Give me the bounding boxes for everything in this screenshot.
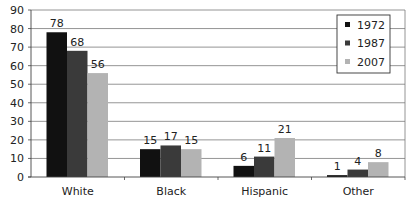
y-tick-label: 30	[10, 115, 24, 128]
y-tick-label: 80	[10, 23, 24, 36]
data-label: 8	[375, 147, 382, 160]
y-axis: 0102030405060708090	[10, 4, 31, 184]
data-label: 15	[143, 134, 157, 147]
y-tick-label: 20	[10, 134, 24, 147]
legend-label: 2007	[357, 56, 385, 69]
legend-swatch	[345, 22, 350, 27]
data-label: 56	[91, 58, 105, 71]
data-label: 11	[257, 142, 271, 155]
data-label: 1	[334, 160, 341, 173]
x-category-label: Hispanic	[241, 185, 288, 198]
bar-other-2007	[368, 162, 389, 177]
data-label: 68	[70, 36, 84, 49]
bar-white-1972	[47, 32, 68, 177]
data-label: 78	[50, 17, 64, 30]
y-tick-label: 60	[10, 60, 24, 73]
data-label: 17	[164, 130, 178, 143]
grouped-bar-chart: 0102030405060708090 78685615171561121148…	[0, 0, 414, 204]
legend-swatch	[345, 59, 350, 64]
data-label: 6	[240, 151, 247, 164]
x-category-label: Black	[156, 185, 186, 198]
y-tick-label: 10	[10, 152, 24, 165]
y-tick-label: 0	[17, 171, 24, 184]
bar-other-1987	[348, 170, 369, 177]
bar-hispanic-1972	[234, 166, 255, 177]
legend-label: 1972	[357, 19, 385, 32]
x-category-label: Other	[343, 185, 375, 198]
bar-black-1987	[161, 145, 182, 177]
bar-black-1972	[140, 149, 161, 177]
legend-label: 1987	[357, 37, 385, 50]
bar-hispanic-1987	[254, 157, 275, 177]
bar-black-2007	[181, 149, 202, 177]
x-axis: WhiteBlackHispanicOther	[28, 177, 405, 198]
y-tick-label: 50	[10, 78, 24, 91]
data-label: 21	[278, 123, 292, 136]
y-tick-label: 40	[10, 97, 24, 110]
y-tick-label: 70	[10, 41, 24, 54]
data-label: 15	[184, 134, 198, 147]
bar-hispanic-2007	[275, 138, 296, 177]
bar-white-1987	[67, 51, 88, 177]
x-category-label: White	[62, 185, 94, 198]
legend-swatch	[345, 41, 350, 46]
bar-white-2007	[88, 73, 109, 177]
data-label: 4	[354, 155, 361, 168]
y-tick-label: 90	[10, 4, 24, 17]
legend: 197219872007	[337, 15, 390, 73]
